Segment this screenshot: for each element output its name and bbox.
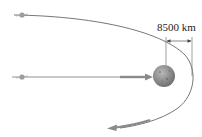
outgoing-arrowhead-icon	[107, 125, 117, 132]
planet	[153, 65, 175, 87]
dimension-arrow-right-icon	[188, 39, 192, 42]
dimension-label: 8500 km	[157, 21, 196, 33]
outgoing-arrow	[116, 120, 150, 128]
flyby-diagram: 8500 km	[0, 0, 202, 137]
velocity-arrowhead-icon	[145, 74, 153, 81]
